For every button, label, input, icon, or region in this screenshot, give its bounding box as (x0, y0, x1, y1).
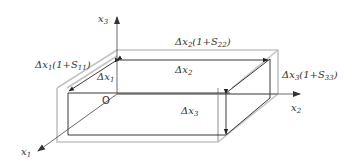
x3-axis-label: x3 (98, 13, 109, 26)
origin-label: O (102, 95, 110, 106)
dx2-label: Δx2 (174, 64, 193, 77)
dx1-deformed-label: Δx1(1+S11) (34, 59, 91, 72)
dx1-label: Δx1 (96, 71, 114, 84)
strain-deformation-diagram: x3 x2 x1 O Δx1 Δx2 Δx3 Δx1(1+S11) Δx2(1+… (0, 0, 344, 163)
dx3-label: Δx3 (180, 105, 199, 118)
x1-axis-label: x1 (21, 146, 31, 159)
x2-axis-label: x2 (291, 102, 302, 115)
coordinate-axes (38, 17, 300, 151)
dx2-deformed-label: Δx2(1+S22) (174, 36, 231, 49)
dx3-deformed-label: Δx3(1+S33) (281, 69, 338, 82)
